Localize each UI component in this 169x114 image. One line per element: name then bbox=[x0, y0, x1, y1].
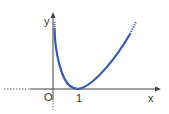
x-axis-arrow-icon bbox=[155, 87, 161, 92]
y-axis-arrow-icon bbox=[51, 12, 56, 18]
y-axis-label: y bbox=[44, 16, 50, 27]
curve bbox=[55, 28, 131, 89]
origin-label: O bbox=[44, 92, 53, 103]
x-axis-label: x bbox=[148, 93, 154, 104]
tick-label-1: 1 bbox=[76, 93, 82, 104]
curve-dotted-end bbox=[130, 22, 136, 34]
graph bbox=[0, 0, 169, 114]
